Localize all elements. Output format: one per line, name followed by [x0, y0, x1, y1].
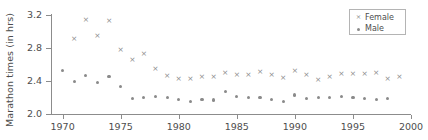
- y-axis-tick-label: 2.8: [8, 43, 42, 53]
- x-axis-tick-label: 1980: [159, 121, 199, 132]
- data-point-female: ×: [82, 16, 89, 23]
- data-point-female: ×: [245, 71, 252, 78]
- data-point-female: ×: [349, 70, 356, 77]
- data-point-male: [131, 97, 134, 100]
- data-point-female: ×: [129, 56, 136, 63]
- legend-item-male: Male: [350, 23, 405, 34]
- x-axis-tick-label: 1990: [275, 121, 315, 132]
- x-axis-tick: [295, 115, 296, 119]
- data-point-female: ×: [164, 72, 171, 79]
- data-point-male: [166, 96, 169, 99]
- data-point-female: ×: [198, 73, 205, 80]
- data-point-male: [177, 98, 180, 101]
- data-point-male: [96, 81, 99, 84]
- data-point-female: ×: [280, 74, 287, 81]
- data-point-male: [73, 80, 76, 83]
- data-point-male: [317, 96, 320, 99]
- cross-marker-icon: ×: [354, 12, 363, 23]
- data-point-male: [351, 96, 354, 99]
- data-point-male: [270, 98, 273, 101]
- data-point-female: ×: [106, 17, 113, 24]
- data-point-male: [247, 96, 250, 99]
- data-point-male: [258, 96, 261, 99]
- data-point-female: ×: [338, 70, 345, 77]
- data-point-female: ×: [326, 73, 333, 80]
- data-point-male: [235, 95, 238, 98]
- chart-legend: × Female Male: [349, 9, 406, 35]
- data-point-male: [200, 98, 203, 101]
- data-point-female: ×: [94, 32, 101, 39]
- data-point-male: [154, 95, 157, 98]
- legend-label-female: Female: [365, 12, 394, 23]
- data-point-female: ×: [152, 65, 159, 72]
- data-point-female: ×: [71, 35, 78, 42]
- data-point-male: [293, 93, 296, 96]
- data-point-female: ×: [117, 46, 124, 53]
- y-axis-tick-label: 2.0: [8, 109, 42, 119]
- y-axis-tick-label: 3.2: [8, 10, 42, 20]
- x-axis-tick-label: 1995: [333, 121, 373, 132]
- x-axis-tick: [121, 115, 122, 119]
- data-point-male: [224, 90, 227, 93]
- data-point-male: [386, 97, 389, 100]
- data-point-female: ×: [210, 73, 217, 80]
- x-axis-tick: [411, 115, 412, 119]
- data-point-female: ×: [222, 69, 229, 76]
- x-axis-tick: [179, 115, 180, 119]
- data-point-female: ×: [315, 76, 322, 83]
- x-axis-tick: [353, 115, 354, 119]
- y-axis-label: Marathon times (in hrs): [2, 0, 18, 140]
- x-axis-tick-label: 1970: [43, 121, 83, 132]
- data-point-female: ×: [303, 71, 310, 78]
- legend-item-female: × Female: [350, 12, 405, 23]
- dot-marker-icon: [357, 28, 360, 31]
- data-point-male: [107, 75, 110, 78]
- data-point-female: ×: [373, 69, 380, 76]
- data-point-male: [84, 74, 87, 77]
- data-point-female: ×: [361, 70, 368, 77]
- data-point-male: [212, 98, 215, 101]
- data-point-female: ×: [268, 71, 275, 78]
- data-point-female: ×: [396, 73, 403, 80]
- legend-label-male: Male: [365, 23, 384, 34]
- data-point-female: ×: [140, 50, 147, 57]
- data-point-male: [189, 100, 192, 103]
- data-point-male: [305, 97, 308, 100]
- x-axis-spine: [51, 114, 411, 115]
- data-point-male: [282, 100, 285, 103]
- x-axis-tick-label: 2000: [391, 121, 428, 132]
- x-axis-tick: [237, 115, 238, 119]
- x-axis-tick-label: 1975: [101, 121, 141, 132]
- y-axis-tick: [46, 114, 51, 115]
- data-point-male: [375, 98, 378, 101]
- data-point-female: ×: [175, 75, 182, 82]
- x-axis-tick-label: 1985: [217, 121, 257, 132]
- data-point-female: ×: [291, 67, 298, 74]
- data-point-female: ×: [384, 75, 391, 82]
- data-point-male: [119, 85, 122, 88]
- data-point-female: ×: [257, 68, 264, 75]
- data-point-female: ×: [233, 71, 240, 78]
- data-point-male: [328, 96, 331, 99]
- data-point-male: [142, 96, 145, 99]
- x-axis-tick: [63, 115, 64, 119]
- y-axis-tick-label: 2.4: [8, 76, 42, 86]
- data-point-male: [61, 69, 64, 72]
- data-point-female: ×: [187, 75, 194, 82]
- data-point-male: [340, 95, 343, 98]
- data-point-male: [363, 97, 366, 100]
